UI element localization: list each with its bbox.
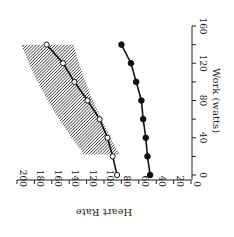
work-tick-label: 40 [198, 132, 208, 144]
hr-tick-label: 160 [53, 170, 63, 187]
open-circle-marker [105, 135, 110, 140]
heart-rate-axis-title: Heart Rate [76, 207, 132, 218]
open-circle-marker [61, 61, 66, 66]
hr-tick-label: 100 [105, 170, 115, 187]
heart-rate-chart: 02040608010012014016018020004080120160Wo… [0, 0, 234, 237]
filled-circle-marker [140, 116, 146, 122]
open-circle-marker [72, 79, 77, 84]
hr-tick-label: 180 [35, 170, 45, 187]
work-tick-label: 80 [198, 95, 208, 107]
open-circle-marker [97, 117, 102, 122]
open-circle-marker [44, 42, 49, 47]
hr-tick-label: 140 [70, 170, 80, 187]
filled-circle-marker [119, 42, 125, 48]
hr-tick-label: 200 [18, 170, 28, 187]
work-axis-title: Work (watts) [211, 68, 222, 133]
filled-circle-marker [128, 60, 134, 66]
filled-circle-marker [143, 135, 149, 141]
work-tick-label: 160 [198, 17, 208, 34]
hr-tick-label: 120 [88, 170, 98, 187]
filled-circle-marker [139, 98, 145, 104]
filled-circle-marker [133, 79, 139, 85]
open-circle-marker [110, 154, 115, 159]
work-tick-label: 120 [198, 55, 208, 72]
hr-tick-label: 20 [175, 176, 185, 188]
hr-tick-label: 80 [122, 176, 132, 188]
hr-tick-label: 60 [140, 176, 150, 188]
filled-circle-marker [145, 154, 151, 160]
open-circle-marker [85, 98, 90, 103]
work-tick-label: 0 [198, 172, 208, 178]
hr-tick-label: 0 [192, 181, 202, 187]
hr-tick-label: 40 [157, 176, 167, 188]
